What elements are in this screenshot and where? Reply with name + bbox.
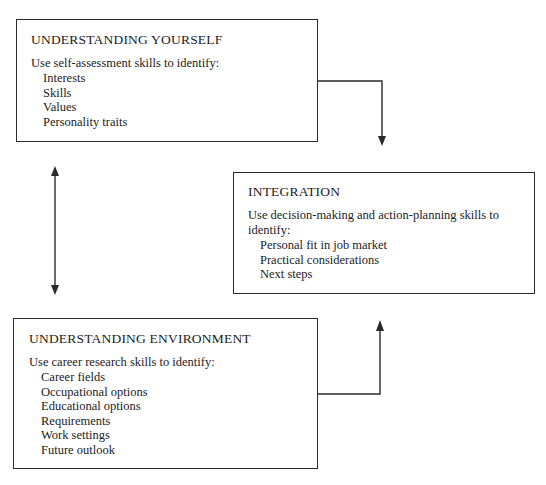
- integration-list: Personal fit in job market Practical con…: [260, 238, 387, 282]
- list-item: Occupational options: [41, 385, 148, 400]
- integration-box: INTEGRATION Use decision-making and acti…: [233, 172, 535, 294]
- arrow-up-icon: [376, 320, 384, 331]
- understanding-environment-title: UNDERSTANDING ENVIRONMENT: [29, 331, 251, 347]
- list-item: Personality traits: [43, 115, 127, 130]
- list-item: Career fields: [41, 370, 148, 385]
- list-item: Work settings: [41, 428, 148, 443]
- list-item: Interests: [43, 71, 127, 86]
- list-item: Educational options: [41, 399, 148, 414]
- understanding-yourself-list: Interests Skills Values Personality trai…: [43, 71, 127, 129]
- arrow-yourself-to-integration: [318, 81, 386, 146]
- understanding-yourself-intro: Use self-assessment skills to identify:: [31, 56, 311, 71]
- double-arrow-yourself-environment: [51, 166, 59, 295]
- understanding-environment-intro: Use career research skills to identify:: [29, 355, 309, 370]
- understanding-yourself-box: UNDERSTANDING YOURSELF Use self-assessme…: [16, 19, 318, 142]
- list-item: Requirements: [41, 414, 148, 429]
- understanding-yourself-title: UNDERSTANDING YOURSELF: [31, 32, 222, 48]
- understanding-environment-list: Career fields Occupational options Educa…: [41, 370, 148, 457]
- integration-intro: Use decision-making and action-planning …: [248, 208, 518, 238]
- list-item: Personal fit in job market: [260, 238, 387, 253]
- list-item: Future outlook: [41, 443, 148, 458]
- understanding-environment-box: UNDERSTANDING ENVIRONMENT Use career res…: [13, 318, 318, 469]
- list-item: Practical considerations: [260, 253, 387, 268]
- list-item: Values: [43, 100, 127, 115]
- arrow-down-icon: [51, 285, 59, 295]
- integration-title: INTEGRATION: [248, 184, 340, 200]
- arrow-up-icon: [51, 166, 59, 176]
- arrow-down-icon: [378, 136, 386, 146]
- list-item: Next steps: [260, 267, 387, 282]
- list-item: Skills: [43, 86, 127, 101]
- arrow-environment-to-integration: [318, 320, 384, 394]
